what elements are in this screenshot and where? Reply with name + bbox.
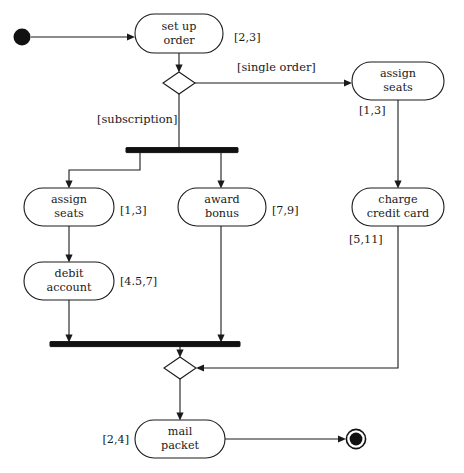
duration-mail-packet: [2,4] [102,433,129,446]
arrowhead-fork-to-assign-sub [65,181,72,189]
activity-assign-seats-single-label-line2: seats [383,81,413,94]
duration-award-bonus: [7,9] [272,204,299,217]
activity-set-up-order-label-line1: set up [162,20,197,33]
initial-node-icon[interactable] [14,29,31,46]
final-node-core-icon [350,433,363,446]
activity-charge-credit-card-label-line1: charge [378,193,418,206]
activity-assign-seats-subscription-label-line1: assign [51,193,87,206]
activity-award-bonus-label-line2: bonus [205,207,239,220]
activity-mail-packet[interactable]: mail packet [135,420,225,458]
activity-charge-credit-card[interactable]: charge credit card [352,188,444,226]
join-bar [50,342,240,347]
activity-assign-seats-subscription[interactable]: assign seats [24,188,114,226]
arrowhead-mail-packet-to-end [338,435,346,442]
activity-debit-account-label-line1: debit [54,267,84,280]
durations-layer: [2,3] [1,3] [1,3] [7,9] [5,11] [4.5,7] [… [102,31,385,446]
arrowhead-assign-single-to-charge [394,181,401,189]
arrowhead-join-to-merge [176,350,183,358]
fork-bar [126,148,238,153]
bars-layer [50,148,240,347]
arrowhead-assign-sub-to-debit [65,255,72,263]
branch-decision-diamond[interactable] [163,72,195,94]
activity-charge-credit-card-label-line2: credit card [367,207,429,220]
activity-debit-account-label-line2: account [47,281,92,294]
arrowhead-setup-to-branch [175,65,182,73]
terminal-nodes-layer [14,29,366,449]
duration-set-up-order: [2,3] [234,31,261,44]
arrowhead-merge-to-mail-packet [176,413,183,421]
arrowhead-start-to-setup [127,33,135,40]
merge-decision-diamond[interactable] [164,357,196,379]
uml-activity-diagram: set up order assign seats assign seats a… [0,0,464,473]
guards-layer: [single order] [subscription] [97,60,316,126]
edge-fork-to-assign-sub [69,153,140,185]
diagram-canvas: set up order assign seats assign seats a… [0,0,464,473]
duration-charge-credit-card: [5,11] [349,233,383,246]
duration-assign-seats-single: [1,3] [359,104,386,117]
duration-assign-seats-subscription: [1,3] [120,204,147,217]
activity-assign-seats-single-label-line1: assign [380,67,416,80]
activity-set-up-order-label-line2: order [163,34,195,47]
activity-mail-packet-label-line1: mail [168,425,193,438]
guard-single-order-label: [single order] [237,60,316,74]
activity-award-bonus-label-line1: award [204,193,239,206]
activity-assign-seats-subscription-label-line2: seats [54,207,84,220]
arrowhead-branch-to-assign-single [344,79,352,86]
activity-set-up-order[interactable]: set up order [135,14,223,53]
arrowhead-charge-to-merge [196,364,204,371]
edges-layer [31,33,402,442]
duration-debit-account: [4.5,7] [120,275,157,288]
activity-award-bonus[interactable]: award bonus [178,188,266,226]
activity-debit-account[interactable]: debit account [24,262,114,300]
arrowhead-fork-to-award-bonus [217,181,224,189]
activity-mail-packet-label-line2: packet [161,439,199,452]
activity-assign-seats-single[interactable]: assign seats [352,62,444,100]
guard-subscription-label: [subscription] [97,112,177,126]
